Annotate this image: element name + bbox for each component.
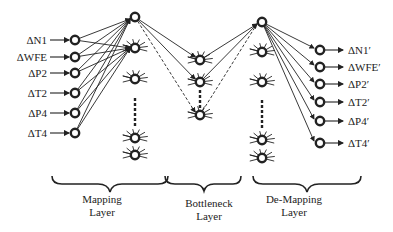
demapping-label-line1: De-Mapping xyxy=(256,193,332,206)
layer-braces xyxy=(52,176,361,192)
output-label: ΔT4′ xyxy=(348,137,370,149)
demapping-node xyxy=(250,131,275,144)
bottleneck-node xyxy=(188,106,213,119)
input-node xyxy=(71,53,79,61)
mapping-node xyxy=(123,129,148,142)
input-node xyxy=(71,69,79,77)
demapping-node xyxy=(258,18,266,26)
demapping-label-line2: Layer xyxy=(256,206,332,219)
output-label: ΔP4′ xyxy=(348,115,369,127)
mapping-label-line2: Layer xyxy=(72,206,132,219)
output-label: ΔT2′ xyxy=(348,96,370,108)
output-node xyxy=(316,80,324,88)
output-label: ΔP2′ xyxy=(348,78,369,90)
mapping-layer-label: Mapping Layer xyxy=(72,193,132,219)
input-label: ΔP4 xyxy=(28,107,47,119)
input-label: ΔP2 xyxy=(28,67,47,79)
output-node xyxy=(316,117,324,125)
input-node xyxy=(71,129,79,137)
input-label: ΔT4 xyxy=(28,127,47,139)
output-node xyxy=(316,98,324,106)
output-node xyxy=(316,63,324,71)
output-label: ΔWFE′ xyxy=(348,61,381,73)
bottleneck-label-line2: Layer xyxy=(176,210,242,223)
demapping-node xyxy=(250,43,275,56)
demapping-node xyxy=(250,73,275,86)
mapping-node xyxy=(123,39,148,52)
input-label: ΔT2 xyxy=(28,87,47,99)
bottleneck-node xyxy=(188,51,213,64)
mapping-node xyxy=(123,146,148,159)
input-node xyxy=(71,89,79,97)
mapping-label-line1: Mapping xyxy=(72,193,132,206)
bottleneck-brace xyxy=(165,176,241,191)
input-label: ΔWFE xyxy=(17,51,47,63)
input-label: ΔN1 xyxy=(26,34,47,46)
demapping-node xyxy=(250,149,275,162)
mapping-brace xyxy=(52,176,168,192)
demapping-brace xyxy=(253,176,361,192)
output-label: ΔN1′ xyxy=(348,44,371,56)
output-node xyxy=(316,46,324,54)
demapping-layer-label: De-Mapping Layer xyxy=(256,193,332,219)
network-diagram: ΔN1ΔWFEΔP2ΔT2ΔP4ΔT4 ΔN1′ΔWFE′ΔP2′ΔT2′ΔP4… xyxy=(0,0,393,232)
bottleneck-label-line1: Bottleneck xyxy=(176,197,242,210)
input-node xyxy=(71,109,79,117)
input-node xyxy=(71,36,79,44)
output-node xyxy=(316,139,324,147)
mapping-node xyxy=(131,13,139,21)
mapping-node xyxy=(123,70,148,83)
bottleneck-layer-label: Bottleneck Layer xyxy=(176,197,242,223)
